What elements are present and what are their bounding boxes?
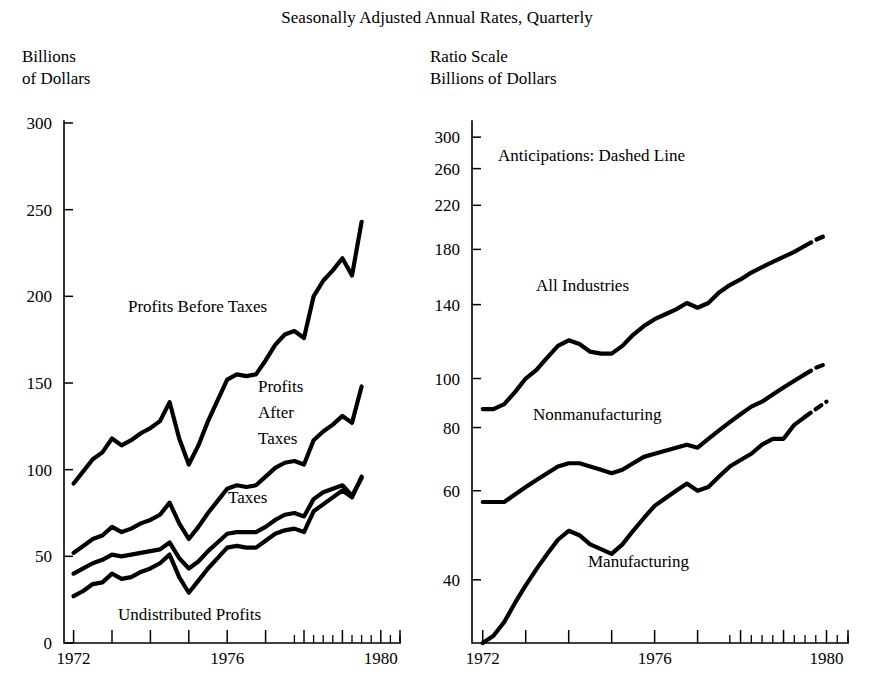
- y-tick-label-left-150: 150: [27, 374, 53, 393]
- series-line-profits-before-taxes: [74, 222, 362, 484]
- left-data-series: [74, 222, 362, 596]
- x-tick-label-left-1972: 1972: [57, 649, 91, 668]
- y-tick-label-right-220: 220: [435, 196, 461, 215]
- series-label-nonmanufacturing: Nonmanufacturing: [533, 405, 662, 424]
- y-tick-label-right-40: 40: [443, 571, 460, 590]
- y-tick-label-left-300: 300: [27, 114, 53, 133]
- series-dashed-manufacturing: [805, 402, 826, 417]
- y-tick-label-right-100: 100: [435, 370, 461, 389]
- y-tick-label-right-60: 60: [443, 482, 460, 501]
- series-label-profits-after-taxes: ProfitsAfterTaxes: [258, 377, 303, 448]
- y-tick-label-right-80: 80: [443, 419, 460, 438]
- y-tick-label-left-0: 0: [44, 634, 53, 653]
- series-label-taxes: Taxes: [228, 488, 267, 507]
- y-tick-label-right-260: 260: [435, 160, 461, 179]
- right-x-tick-labels: 197219761980: [466, 649, 844, 668]
- y-tick-label-right-140: 140: [435, 296, 461, 315]
- anticipations-note: Anticipations: Dashed Line: [498, 146, 685, 165]
- series-label-all-industries: All Industries: [536, 276, 629, 295]
- right-y-tick-labels: 406080100140180220260300: [435, 128, 461, 590]
- left-axis-ticks: [64, 123, 400, 643]
- series-label-undistributed-profits: Undistributed Profits: [118, 605, 261, 624]
- y-tick-label-left-50: 50: [35, 547, 52, 566]
- series-line-all-industries: [483, 246, 805, 409]
- x-tick-label-left-1980: 1980: [364, 649, 398, 668]
- x-tick-label-right-1972: 1972: [466, 649, 500, 668]
- series-dashed-all-industries: [805, 235, 826, 246]
- right-chart-panel: 406080100140180220260300 197219761980 An…: [435, 121, 849, 668]
- x-tick-label-left-1976: 1976: [210, 649, 244, 668]
- right-series-labels: All IndustriesNonmanufacturingManufactur…: [533, 276, 690, 571]
- right-data-series: [483, 235, 827, 643]
- y-tick-label-left-250: 250: [27, 201, 53, 220]
- series-line-nonmanufacturing: [483, 374, 805, 502]
- left-axis-frame: [64, 121, 400, 643]
- series-dashed-nonmanufacturing: [805, 364, 826, 375]
- left-chart-panel: 050100150200250300 197219761980 Profits …: [27, 114, 401, 668]
- series-line-manufacturing: [483, 417, 805, 643]
- charts-svg: 050100150200250300 197219761980 Profits …: [0, 0, 874, 687]
- series-line-profits-after-taxes: [74, 386, 362, 552]
- y-tick-label-right-180: 180: [435, 240, 461, 259]
- y-tick-label-left-100: 100: [27, 461, 53, 480]
- series-label-manufacturing: Manufacturing: [588, 552, 690, 571]
- x-tick-label-right-1980: 1980: [810, 649, 844, 668]
- left-y-tick-labels: 050100150200250300: [27, 114, 53, 653]
- left-x-tick-labels: 197219761980: [57, 649, 398, 668]
- chart-figure: Seasonally Adjusted Annual Rates, Quarte…: [0, 0, 874, 687]
- x-tick-label-right-1976: 1976: [638, 649, 672, 668]
- series-label-profits-before-taxes: Profits Before Taxes: [128, 297, 267, 316]
- y-tick-label-right-300: 300: [435, 128, 461, 147]
- y-tick-label-left-200: 200: [27, 287, 53, 306]
